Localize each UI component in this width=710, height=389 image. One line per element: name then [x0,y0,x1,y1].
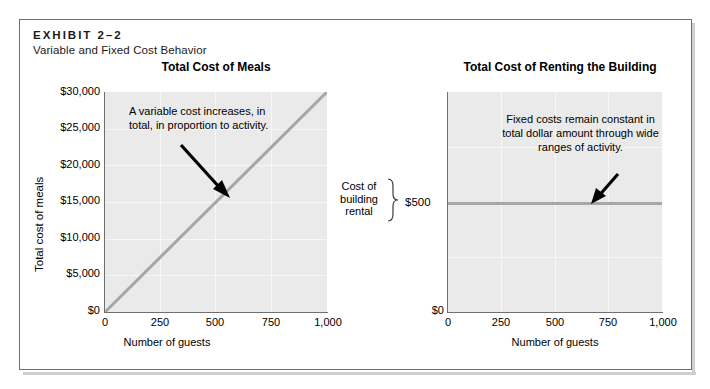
x-tick-label: 500 [535,316,575,328]
y-tick-label: $0 [36,304,100,316]
y-tick-label: $30,000 [36,85,100,97]
y-tick-label: $10,000 [36,231,100,243]
y-axis-title-left: Total cost of meals [33,177,45,272]
annotation-arrow-right [588,172,622,206]
exhibit-subtitle: Variable and Fixed Cost Behavior [33,44,207,56]
x-axis-line-left [104,312,328,313]
y-tick-label: $25,000 [36,121,100,133]
exhibit-label: EXHIBIT 2–2 [33,29,123,41]
fixed-cost-series-line [448,202,662,205]
chart-title-variable-cost: Total Cost of Meals [105,60,327,74]
annotation-variable-cost: A variable cost increases, in total, in … [129,104,289,132]
y-axis-line-right [447,92,448,313]
x-tick-label: 1,000 [641,316,685,328]
frame-shadow-bottom [23,372,696,375]
x-axis-line-right [447,312,663,313]
x-axis-title-left: Number of guests [124,336,211,348]
x-tick-label: 1,000 [306,316,350,328]
x-tick-label: 500 [195,316,235,328]
y-tick-label: $0 [410,304,444,316]
y-tick-label-500: $500 [405,196,431,208]
x-tick-label: 0 [85,316,125,328]
callout-label-text: Cost of building rental [340,180,378,217]
exhibit-figure: EXHIBIT 2–2 Variable and Fixed Cost Beha… [0,0,710,389]
callout-label-building-rental: Cost of building rental [333,180,385,218]
y-tick-label: $5,000 [36,267,100,279]
annotation-arrow-left [178,142,234,200]
x-axis-title-right: Number of guests [512,336,599,348]
x-tick-label: 250 [140,316,180,328]
x-tick-label: 750 [588,316,628,328]
y-tick-label: $15,000 [36,194,100,206]
gridline-h [448,257,662,258]
y-axis-line-left [104,92,105,313]
x-tick-label: 250 [481,316,521,328]
annotation-fixed-cost: Fixed costs remain constant in total dol… [498,112,663,154]
x-tick-label: 750 [251,316,291,328]
y-tick-label: $20,000 [36,158,100,170]
frame-shadow-right [692,23,695,375]
x-tick-label: 0 [428,316,468,328]
callout-brace-icon [386,178,400,222]
chart-title-fixed-cost: Total Cost of Renting the Building [420,60,700,74]
